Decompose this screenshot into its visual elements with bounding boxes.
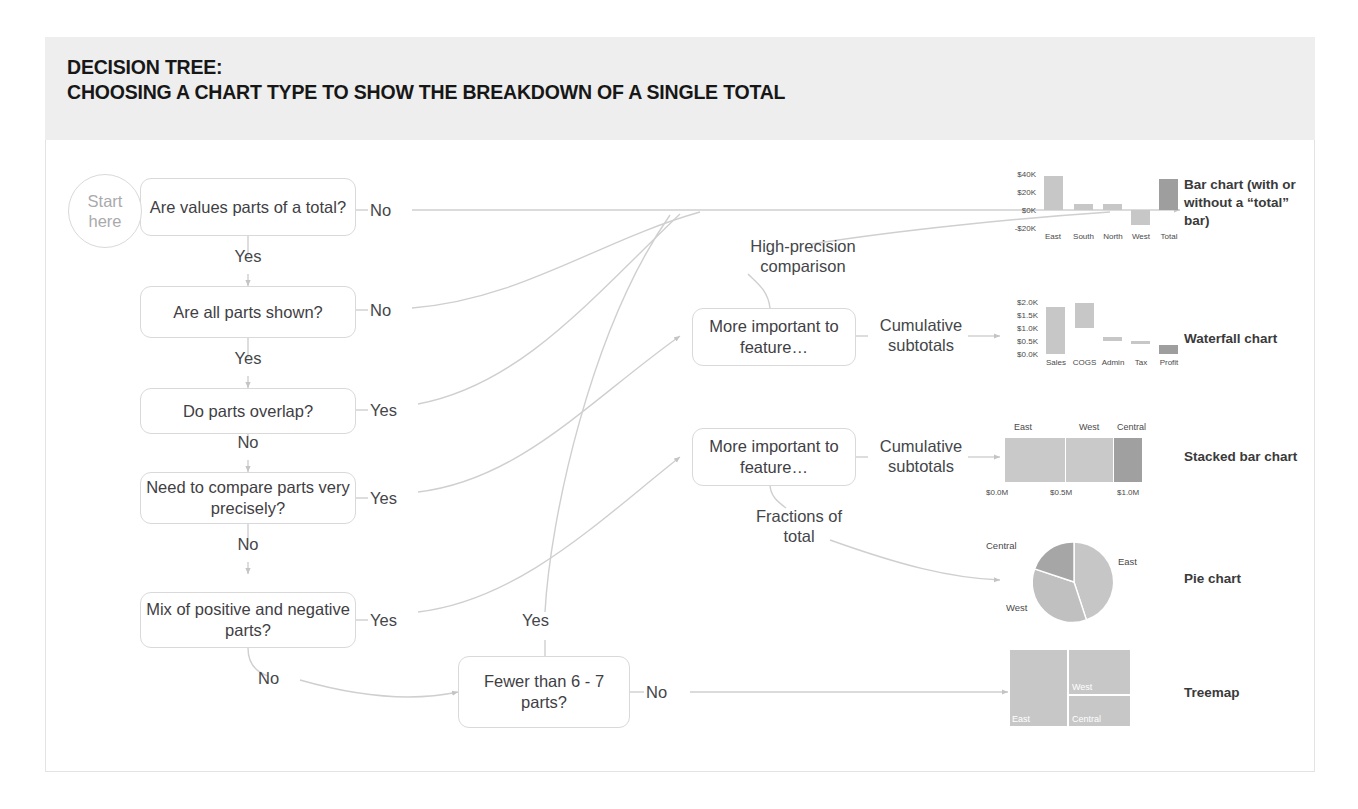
- bar-ytick-0k: $0K: [998, 206, 1036, 215]
- bar-ytick-40k: $40K: [998, 170, 1036, 179]
- question-box-fewer-than-parts[interactable]: Fewer than 6 - 7 parts?: [458, 656, 630, 728]
- edge-label-q3-yes: Yes: [370, 400, 397, 420]
- stacked-seg-label-central: Central: [1117, 422, 1146, 432]
- treemap-label-east: East: [1012, 714, 1030, 724]
- edge-label-q5-no: No: [258, 668, 279, 688]
- bar-ytick-neg20k: -$20K: [998, 224, 1036, 233]
- question-box-positive-negative[interactable]: Mix of positive and negative parts?: [140, 592, 356, 648]
- wf-bar-cogs: [1075, 303, 1094, 328]
- wf-bar-tax: [1131, 341, 1150, 344]
- bar-cat-west: West: [1127, 232, 1155, 241]
- treemap-label-west: West: [1072, 682, 1092, 692]
- wf-bar-sales: [1046, 307, 1065, 354]
- stacked-xtick-0-5m: $0.5M: [1050, 488, 1072, 497]
- mini-chart-stacked-bar: East West Central $0.0M $0.5M $1.0M: [1000, 422, 1180, 500]
- mini-chart-treemap: West East Central: [1010, 650, 1160, 730]
- edge-label-q6-no: No: [646, 682, 667, 702]
- wf-cat-admin: Admin: [1097, 358, 1129, 367]
- wf-ytick-1-5k: $1.5K: [998, 311, 1038, 320]
- stacked-xtick-1-0m: $1.0M: [1117, 488, 1139, 497]
- result-label-waterfall-chart: Waterfall chart: [1184, 330, 1324, 348]
- mini-chart-bar: $40K $20K $0K -$20K East South North Wes…: [998, 166, 1174, 248]
- edge-label-q3-no: No: [226, 432, 270, 452]
- result-label-treemap: Treemap: [1184, 684, 1304, 702]
- bar-ytick-20k: $20K: [998, 188, 1036, 197]
- stacked-seg-west: [1066, 438, 1113, 482]
- treemap-label-central: Central: [1072, 714, 1101, 724]
- pie-label-west: West: [1006, 602, 1027, 613]
- wf-cat-tax: Tax: [1127, 358, 1155, 367]
- bar-cat-east: East: [1038, 232, 1068, 241]
- wf-cat-profit: Profit: [1154, 358, 1184, 367]
- edge-label-q4-yes: Yes: [370, 488, 397, 508]
- result-label-pie-chart: Pie chart: [1184, 570, 1304, 588]
- edge-label-high-precision-comparison: High-precision comparison: [728, 236, 878, 276]
- result-label-bar-chart: Bar chart (with or without a “total” bar…: [1184, 176, 1312, 230]
- edge-label-fractions-of-total: Fractions of total: [744, 506, 854, 546]
- bar-east: [1044, 176, 1063, 210]
- bar-north: [1103, 204, 1122, 210]
- title-line-2: CHOOSING A CHART TYPE TO SHOW THE BREAKD…: [67, 80, 1167, 105]
- stacked-seg-east: [1005, 438, 1065, 482]
- stacked-xtick-0-0m: $0.0M: [986, 488, 1008, 497]
- wf-ytick-2-0k: $2.0K: [998, 298, 1038, 307]
- bar-cat-south: South: [1067, 232, 1100, 241]
- stacked-seg-central: [1114, 438, 1142, 482]
- question-box-compare-precisely[interactable]: Need to compare parts very precisely?: [140, 472, 356, 524]
- question-box-more-important-upper[interactable]: More important to feature…: [692, 308, 856, 366]
- pie-label-east: East: [1118, 556, 1137, 567]
- stacked-seg-label-east: East: [1014, 422, 1032, 432]
- edge-label-cumulative-subtotals-upper: Cumulative subtotals: [866, 315, 976, 355]
- edge-label-q5-yes: Yes: [370, 610, 397, 630]
- page-title: DECISION TREE: CHOOSING A CHART TYPE TO …: [67, 55, 1167, 105]
- question-box-more-important-lower[interactable]: More important to feature…: [692, 428, 856, 486]
- wf-ytick-0-0k: $0.0K: [998, 350, 1038, 359]
- edge-label-q1-no: No: [370, 200, 391, 220]
- title-line-1: DECISION TREE:: [67, 56, 222, 78]
- wf-ytick-1-0k: $1.0K: [998, 324, 1038, 333]
- question-box-parts-overlap[interactable]: Do parts overlap?: [140, 388, 356, 434]
- wf-ytick-0-5k: $0.5K: [998, 337, 1038, 346]
- wf-cat-sales: Sales: [1041, 358, 1071, 367]
- mini-chart-pie: Central East West: [1000, 530, 1180, 630]
- stacked-seg-label-west: West: [1079, 422, 1099, 432]
- question-box-values-parts-of-total[interactable]: Are values parts of a total?: [140, 178, 356, 236]
- pie-svg: [1026, 534, 1136, 630]
- wf-bar-profit: [1159, 345, 1178, 354]
- start-here-badge: Start here: [68, 174, 142, 248]
- wf-bar-admin: [1103, 337, 1122, 341]
- start-line-2: here: [88, 212, 121, 230]
- edge-label-q4-no: No: [226, 534, 270, 554]
- bar-south: [1074, 204, 1093, 210]
- edge-label-q2-yes: Yes: [224, 348, 272, 368]
- mini-chart-waterfall: $2.0K $1.5K $1.0K $0.5K $0.0K Sales COGS…: [998, 296, 1158, 378]
- edge-label-q2-no: No: [370, 300, 391, 320]
- bar-west: [1131, 210, 1150, 225]
- decision-tree-poster: DECISION TREE: CHOOSING A CHART TYPE TO …: [0, 0, 1358, 809]
- bar-cat-total: Total: [1155, 232, 1183, 241]
- bar-total: [1159, 179, 1178, 210]
- question-box-all-parts-shown[interactable]: Are all parts shown?: [140, 286, 356, 338]
- bar-cat-north: North: [1097, 232, 1129, 241]
- edge-label-q6-yes: Yes: [522, 610, 549, 630]
- edge-label-q1-yes: Yes: [224, 246, 272, 266]
- start-line-1: Start: [88, 192, 123, 210]
- edge-label-cumulative-subtotals-lower: Cumulative subtotals: [866, 436, 976, 476]
- pie-label-central: Central: [986, 540, 1017, 551]
- result-label-stacked-bar-chart: Stacked bar chart: [1184, 448, 1304, 466]
